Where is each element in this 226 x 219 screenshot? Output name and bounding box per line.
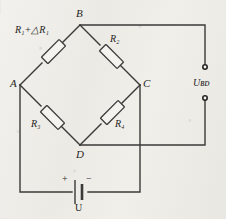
node-label-c: C xyxy=(143,78,150,89)
source-label-u: U xyxy=(75,203,82,213)
output-terminal-bottom[interactable] xyxy=(203,96,207,100)
output-voltage-label: Uʙᴅ xyxy=(193,78,210,88)
resistor-label-r2: R₂ xyxy=(110,34,120,44)
source-minus-sign: − xyxy=(86,174,92,184)
source-plus-sign: + xyxy=(62,174,68,184)
node-label-a: A xyxy=(10,78,17,89)
dc-source-symbol xyxy=(75,180,82,204)
resistor-label-r4: R₄ xyxy=(115,119,125,129)
branch-d-c xyxy=(80,85,140,145)
node-label-d: D xyxy=(76,149,84,160)
resistor-r3-body xyxy=(40,105,64,129)
circuit-diagram-canvas: A B C D R₁+△R₁ R₂ R₃ R₄ Uʙᴅ + − U xyxy=(0,0,226,219)
lead-b-to-output xyxy=(80,25,205,65)
resistor-label-r3: R₃ xyxy=(31,119,41,129)
branch-a-d xyxy=(20,85,80,145)
lead-source-to-c xyxy=(88,85,140,192)
output-terminal-top[interactable] xyxy=(203,65,207,69)
resistor-r2-body xyxy=(99,44,123,68)
resistor-label-r1-delta: R₁+△R₁ xyxy=(15,25,49,35)
node-label-b: B xyxy=(76,8,83,19)
resistor-r1-delta-body xyxy=(41,39,65,63)
lead-d-to-output xyxy=(80,100,205,145)
